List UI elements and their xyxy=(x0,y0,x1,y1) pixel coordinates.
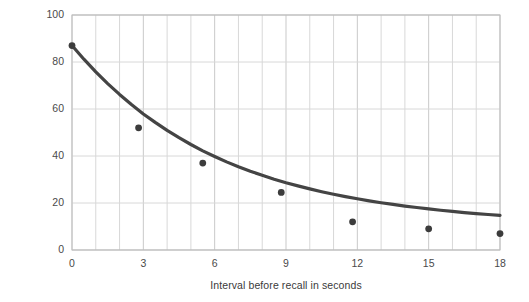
data-point xyxy=(278,189,285,196)
data-point xyxy=(69,42,76,49)
gridlines xyxy=(72,15,500,250)
data-point xyxy=(425,225,432,232)
chart-container: Percent of accuracy of recall Interval b… xyxy=(0,0,529,302)
data-point xyxy=(349,218,356,225)
data-point xyxy=(135,124,142,131)
data-point xyxy=(199,160,206,167)
plot-area xyxy=(0,0,529,302)
data-point xyxy=(497,230,504,237)
